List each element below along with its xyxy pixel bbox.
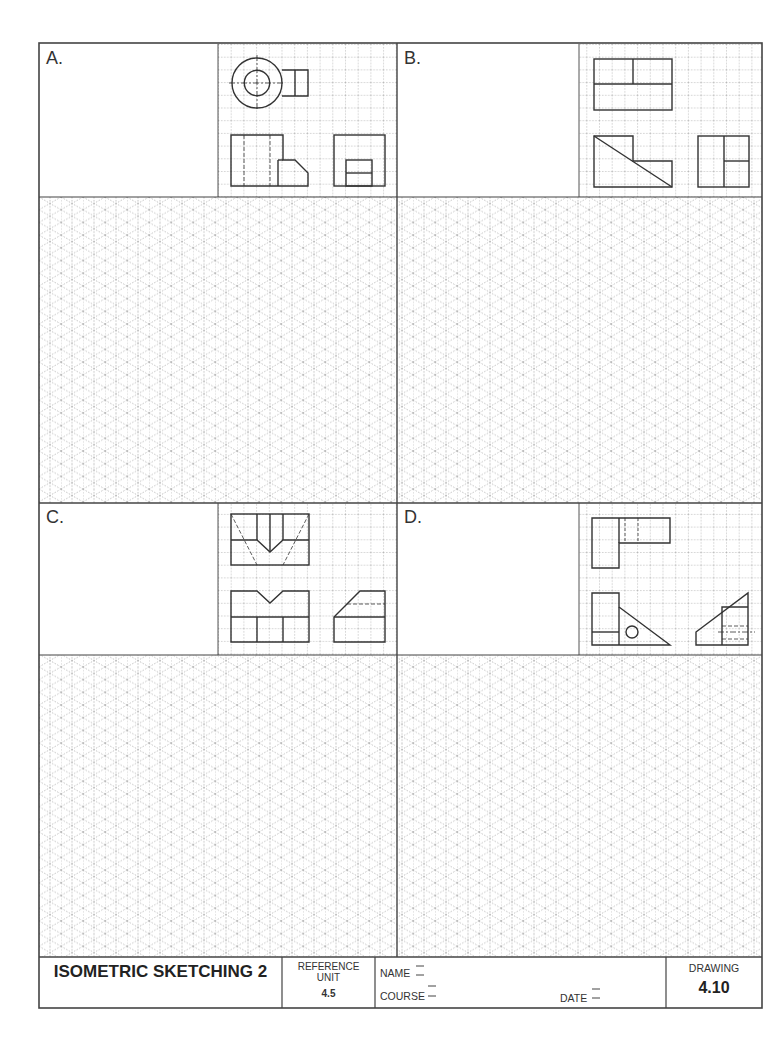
panel-b-view-grid	[579, 44, 762, 197]
reference-label-line2: UNIT	[282, 972, 375, 983]
reference-unit-label: REFERENCE UNIT	[282, 961, 375, 983]
panel-a-iso-grid[interactable]	[39, 197, 397, 503]
panel-a-letter: A.	[46, 48, 63, 69]
panel-b-iso-grid[interactable]	[397, 197, 762, 503]
panel-b	[397, 44, 762, 503]
panel-c	[39, 503, 397, 957]
panel-a	[39, 44, 397, 503]
panel-c-view-grid	[218, 503, 397, 655]
panel-d	[397, 503, 762, 957]
panel-c-iso-grid[interactable]	[39, 655, 397, 957]
course-field-label[interactable]: COURSE	[380, 990, 425, 1002]
drawing-sheet	[0, 0, 784, 1062]
panel-d-iso-grid[interactable]	[397, 655, 762, 957]
name-field-label[interactable]: NAME	[380, 967, 410, 979]
sheet-title: ISOMETRIC SKETCHING 2	[39, 962, 282, 982]
reference-label-line1: REFERENCE	[282, 961, 375, 972]
panel-b-letter: B.	[404, 48, 421, 69]
panel-d-letter: D.	[404, 507, 422, 528]
panel-c-letter: C.	[46, 507, 64, 528]
drawing-label: DRAWING	[666, 963, 762, 974]
date-field-label[interactable]: DATE	[560, 992, 587, 1004]
drawing-number: 4.10	[666, 979, 762, 997]
reference-unit-value: 4.5	[282, 988, 375, 999]
